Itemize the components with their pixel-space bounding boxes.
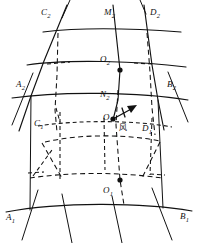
diagram-svg [0, 0, 200, 243]
edge-left-pillar [30, 96, 31, 210]
arc-top [43, 29, 181, 32]
wind-direction-label: 风 [119, 124, 127, 132]
label-O1: O1 [103, 186, 113, 197]
label-O2: O2 [100, 55, 110, 66]
label-A2: A2 [16, 80, 25, 91]
label-B2: B2 [167, 80, 176, 91]
node-dot-O1 [117, 177, 122, 182]
label-C2: C2 [41, 8, 51, 19]
dashed-arc-O1 [30, 174, 162, 179]
node-dot-O2 [117, 67, 122, 72]
dashed-diag-left [42, 143, 62, 178]
dashed-inner-center-vertical [104, 118, 105, 170]
edge-right-pillar [158, 100, 163, 208]
slant-center-bottom [112, 196, 122, 243]
dashed-arc-C1D1 [45, 136, 160, 142]
slant-top-left-stub [62, 0, 70, 18]
label-A1: A1 [6, 213, 15, 224]
slant-right-D2 [144, 5, 164, 130]
label-N2: N2 [100, 90, 110, 101]
slant-center-M2 [113, 5, 120, 120]
figure-canvas: C2 M2 D2 O2 A2 B2 N2 O C1 D1 O1 A1 B1 风 [0, 0, 200, 243]
dashed-center-vertical [116, 90, 124, 205]
dashed-left-vertical [55, 33, 58, 132]
slant-top-right-stub [140, 0, 146, 14]
label-D2: D2 [150, 8, 160, 19]
dashed-stub-C1 [56, 108, 60, 122]
wind-arrow-head [127, 105, 137, 113]
label-M2: M2 [104, 8, 115, 19]
label-B1: B1 [180, 212, 189, 223]
arc-bottom [6, 204, 192, 212]
dashed-tick-right-lower [150, 174, 165, 175]
label-C1: C1 [34, 119, 44, 130]
label-D1: D1 [142, 124, 152, 135]
slant-bottomleft-cross [62, 194, 72, 243]
dashed-right-vertical [147, 33, 155, 135]
label-O: O [103, 113, 110, 124]
